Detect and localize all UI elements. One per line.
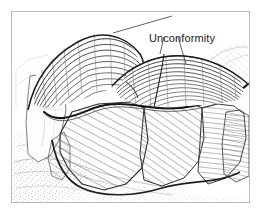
tilted-beds-far-right bbox=[222, 110, 249, 182]
unconformity-label: Unconformity bbox=[149, 32, 215, 44]
figure-root: Unconformity bbox=[0, 0, 261, 215]
figure-frame: Unconformity bbox=[11, 11, 250, 203]
